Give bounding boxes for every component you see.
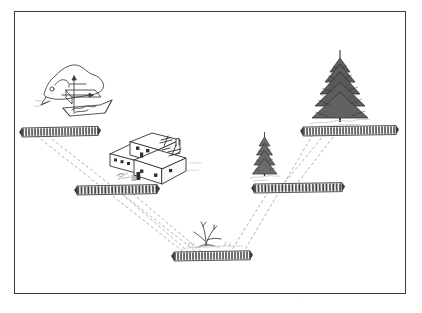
large-conifer-tree <box>310 50 370 127</box>
faint-caption: . <box>300 297 420 311</box>
hatched-bar-mid-left <box>74 185 160 195</box>
small-conifer-tree <box>250 132 280 181</box>
hatched-bar-bottom <box>171 251 253 261</box>
shrub-stump <box>182 222 242 249</box>
features-layer <box>0 0 422 313</box>
figure-canvas: . Landscape intervisibility diagram <box>0 0 422 313</box>
hatched-bar-upper-left <box>19 126 101 137</box>
terrain-block-sketch <box>34 65 112 116</box>
hatched-bar-mid-right <box>251 183 345 193</box>
hatched-bar-upper-right <box>300 125 399 136</box>
house-building <box>110 133 201 184</box>
